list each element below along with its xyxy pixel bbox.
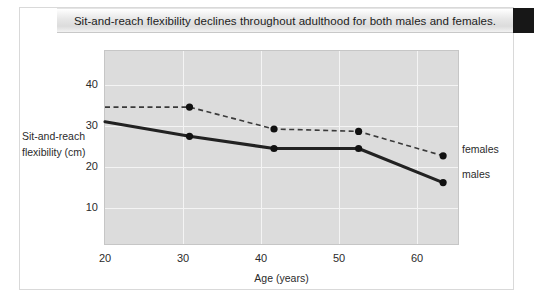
series-lines <box>105 51 460 246</box>
x-tick-40: 40 <box>241 252 281 264</box>
x-tick-60: 60 <box>397 252 437 264</box>
figure: Sit-and-reach flexibility declines throu… <box>0 0 534 305</box>
x-tick-30: 30 <box>163 252 203 264</box>
x-tick-50: 50 <box>319 252 359 264</box>
y-tick-40: 40 <box>74 78 98 90</box>
y-axis-title: Sit-and-reach flexibility (cm) <box>22 128 102 160</box>
markers-females <box>186 104 447 160</box>
y-tick-10: 10 <box>74 201 98 213</box>
page-title: Sit-and-reach flexibility declines throu… <box>74 15 496 27</box>
chart-title-bar: Sit-and-reach flexibility declines throu… <box>57 8 513 33</box>
plot-area <box>104 50 459 245</box>
x-axis-ticks: 20 30 40 50 60 <box>104 252 459 268</box>
title-accent-block <box>513 8 534 33</box>
legend-label-males: males <box>462 168 490 180</box>
x-axis-title: Age (years) <box>104 272 459 284</box>
x-tick-20: 20 <box>85 252 125 264</box>
legend-label-females: females <box>462 143 499 155</box>
y-tick-20: 20 <box>74 160 98 172</box>
